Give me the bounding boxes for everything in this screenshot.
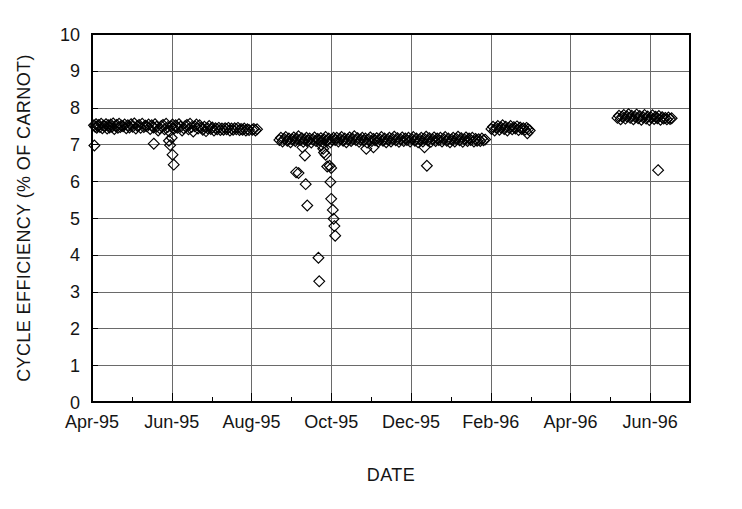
x-tick-label-Feb-96: Feb-96	[462, 412, 519, 432]
data-point	[300, 179, 311, 190]
data-points	[89, 109, 677, 287]
data-point	[421, 160, 432, 171]
grid-lines	[92, 34, 690, 402]
y-axis-title: CYCLE EFFICIENCY (% OF CARNOT)	[14, 54, 34, 382]
x-tick-label-Oct-95: Oct-95	[304, 412, 358, 432]
y-tick-label-10: 10	[60, 25, 80, 45]
y-tick-label-8: 8	[70, 98, 80, 118]
data-point	[653, 165, 664, 176]
x-axis-title: DATE	[367, 465, 415, 485]
chart-figure: 012345678910 Apr-95Jun-95Aug-95Oct-95Dec…	[0, 0, 742, 509]
data-point	[168, 159, 179, 170]
y-tick-label-9: 9	[70, 61, 80, 81]
scatter-chart: 012345678910 Apr-95Jun-95Aug-95Oct-95Dec…	[0, 0, 742, 509]
data-point	[314, 276, 325, 287]
data-point	[148, 138, 159, 149]
y-tick-label-5: 5	[70, 209, 80, 229]
y-tick-label-1: 1	[70, 356, 80, 376]
data-point	[313, 252, 324, 263]
x-tick-label-Aug-95: Aug-95	[222, 412, 280, 432]
x-tick-label-Jun-95: Jun-95	[144, 412, 199, 432]
x-tick-label-Dec-95: Dec-95	[382, 412, 440, 432]
y-tick-label-2: 2	[70, 319, 80, 339]
y-tick-label-0: 0	[70, 393, 80, 413]
x-axis-tick-labels: Apr-95Jun-95Aug-95Oct-95Dec-95Feb-96Apr-…	[65, 412, 678, 432]
x-tick-label-Apr-95: Apr-95	[65, 412, 119, 432]
y-axis-tick-labels: 012345678910	[60, 25, 80, 413]
x-tick-label-Apr-96: Apr-96	[543, 412, 597, 432]
data-point	[302, 200, 313, 211]
y-tick-label-3: 3	[70, 282, 80, 302]
data-point	[89, 140, 100, 151]
y-tick-label-6: 6	[70, 172, 80, 192]
data-point	[329, 221, 340, 232]
y-tick-label-7: 7	[70, 135, 80, 155]
y-tick-label-4: 4	[70, 245, 80, 265]
x-tick-label-Jun-96: Jun-96	[623, 412, 678, 432]
